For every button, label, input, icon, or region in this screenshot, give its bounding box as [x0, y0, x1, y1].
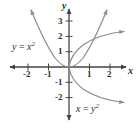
- graph-figure: -2 -1 1 2 3 2 1 -1 -2 y x y = x2 x = y2: [0, 0, 139, 131]
- y-tick-label-neg1: -1: [55, 78, 63, 87]
- label-exponent-2: 2: [96, 102, 100, 110]
- y-tick-label-neg2: -2: [55, 93, 63, 102]
- x-tick-label-2: 2: [107, 70, 112, 79]
- coordinate-plot: [0, 0, 139, 131]
- y-axis-label: y: [62, 1, 66, 11]
- label-equals-1: =: [16, 41, 27, 52]
- label-equals-2: =: [80, 103, 91, 114]
- y-tick-label-1: 1: [58, 47, 63, 56]
- curve-x-equals-y-squared-lower: [69, 67, 124, 103]
- x-tick-label-neg2: -2: [23, 70, 31, 79]
- label-x-equals-y-squared: x = y2: [76, 103, 99, 114]
- y-tick-label-3: 3: [58, 17, 63, 26]
- curve-x-equals-y-squared-upper: [69, 32, 124, 68]
- x-tick-label-neg1: -1: [44, 70, 52, 79]
- x-tick-label-1: 1: [87, 70, 92, 79]
- y-tick-label-2: 2: [58, 32, 63, 41]
- label-y-equals-x-squared: y = x2: [12, 41, 35, 52]
- x-axis-label: x: [128, 66, 133, 76]
- label-exponent-1: 2: [32, 40, 36, 48]
